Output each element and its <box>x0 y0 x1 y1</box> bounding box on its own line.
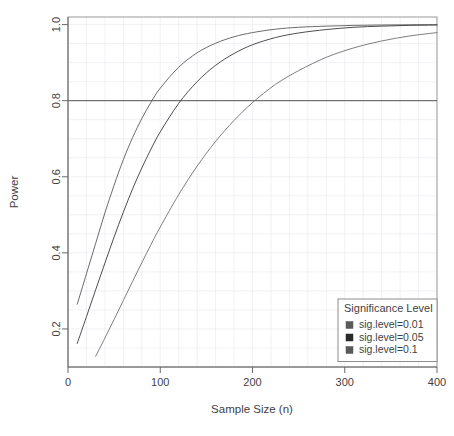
x-tick-label-3: 300 <box>336 376 354 388</box>
series-line-0 <box>77 25 437 305</box>
power-curve-chart: 0100200300400 0.20.40.60.81.0 Sample Siz… <box>0 0 454 436</box>
legend-swatch-0 <box>346 322 353 329</box>
y-tick-label-1: 0.4 <box>50 245 62 260</box>
x-axis: 0100200300400 <box>65 367 446 388</box>
y-tick-label-3: 0.8 <box>50 93 62 108</box>
x-tick-label-4: 400 <box>428 376 446 388</box>
legend-swatch-1 <box>346 334 353 341</box>
legend: Significance Levelsig.level=0.01sig.leve… <box>338 299 437 362</box>
legend-label-2: sig.level=0.1 <box>359 343 418 355</box>
y-tick-label-4: 1.0 <box>50 17 62 32</box>
chart-canvas: 0100200300400 0.20.40.60.81.0 Sample Siz… <box>0 0 454 436</box>
y-axis: 0.20.40.60.81.0 <box>50 17 68 367</box>
x-tick-label-0: 0 <box>65 376 71 388</box>
legend-label-1: sig.level=0.05 <box>359 331 424 343</box>
legend-swatch-2 <box>346 347 353 354</box>
series-line-1 <box>77 25 437 343</box>
x-tick-label-2: 200 <box>243 376 261 388</box>
x-tick-label-1: 100 <box>151 376 169 388</box>
y-tick-label-2: 0.6 <box>50 169 62 184</box>
x-axis-title: Sample Size (n) <box>211 403 293 415</box>
y-tick-label-0: 0.2 <box>50 321 62 336</box>
y-axis-title: Power <box>8 176 20 209</box>
legend-label-0: sig.level=0.01 <box>359 318 424 330</box>
legend-title: Significance Level <box>344 302 433 314</box>
